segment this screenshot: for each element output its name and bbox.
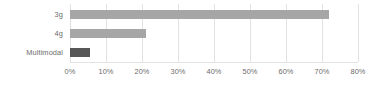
xtick-label-3: 30% [170, 66, 185, 78]
gridline-80 [358, 4, 359, 62]
xtick-label-6: 60% [278, 66, 293, 78]
category-axis: 3g 4g Multimodal [0, 6, 66, 62]
xtick-label-7: 70% [314, 66, 329, 78]
bar-4g [70, 29, 146, 38]
xtick-label-4: 40% [206, 66, 221, 78]
x-axis-line [70, 62, 358, 63]
xtick-label-1: 10% [98, 66, 113, 78]
category-label-0: 3g [55, 10, 63, 19]
bar-3g [70, 10, 329, 19]
xtick-label-0: 0% [65, 66, 76, 78]
xtick-label-2: 20% [134, 66, 149, 78]
category-label-2: Multimodal [26, 48, 63, 57]
bar-multimodal [70, 48, 90, 57]
category-label-1: 4g [55, 29, 63, 38]
xtick-label-5: 50% [242, 66, 257, 78]
xtick-label-8: 80% [350, 66, 365, 78]
plot-area [70, 4, 358, 62]
bar-chart: 3g 4g Multimodal 0% 10% 20% 30% 40% 50% … [0, 0, 380, 88]
x-axis-ticks: 0% 10% 20% 30% 40% 50% 60% 70% 80% [0, 66, 380, 80]
